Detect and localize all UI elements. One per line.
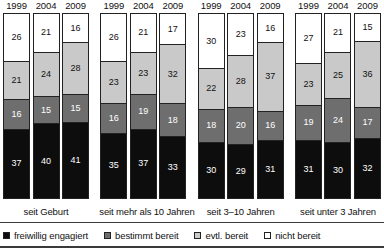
segment-evtl-bereit[interactable]: 37 — [258, 43, 283, 111]
segment-nicht-bereit[interactable]: 26 — [101, 14, 126, 62]
segment-value-label: 16 — [265, 121, 275, 130]
segment-value-label: 31 — [265, 165, 275, 174]
year-label: 1999 — [3, 0, 30, 13]
segment-value-label: 22 — [206, 84, 216, 93]
category-label-row: seit Geburtseit mehr als 10 Jahrenseit 3… — [0, 205, 384, 221]
stacked-bar[interactable]: 17321833 — [159, 13, 186, 199]
segment-bestimmt-bereit[interactable]: 19 — [296, 106, 321, 141]
segment-bestimmt-bereit[interactable]: 15 — [34, 97, 59, 125]
legend-item[interactable]: nicht bereit — [264, 230, 320, 241]
segment-bestimmt-bereit[interactable]: 17 — [355, 108, 380, 139]
segment-bestimmt-bereit[interactable]: 18 — [199, 110, 224, 143]
stacked-bar[interactable]: 21252430 — [324, 13, 351, 199]
segment-value-label: 19 — [303, 118, 313, 127]
segment-value-label: 30 — [206, 37, 216, 46]
segment-evtl-bereit[interactable]: 24 — [34, 53, 59, 97]
segment-value-label: 17 — [362, 118, 372, 127]
stacked-bar[interactable]: 26211637 — [3, 13, 30, 199]
bar-group: 199920042009262116372124154016281541 — [2, 0, 90, 210]
segment-nicht-bereit[interactable]: 26 — [4, 14, 29, 62]
legend-label: bestimmt bereit — [115, 230, 178, 241]
segment-value-label: 23 — [236, 30, 246, 39]
segment-nicht-bereit[interactable]: 21 — [34, 14, 59, 53]
segment-freiwillig-engagiert[interactable]: 32 — [355, 139, 380, 198]
segment-freiwillig-engagiert[interactable]: 29 — [228, 145, 253, 198]
year-header-row: 199920042009 — [2, 0, 90, 13]
segment-evtl-bereit[interactable]: 25 — [325, 53, 350, 99]
segment-evtl-bereit[interactable]: 23 — [131, 53, 156, 95]
legend-item[interactable]: freiwillig engagiert — [3, 230, 88, 241]
stacked-bar[interactable]: 21241540 — [33, 13, 60, 199]
segment-freiwillig-engagiert[interactable]: 31 — [296, 141, 321, 198]
segment-nicht-bereit[interactable]: 21 — [131, 14, 156, 53]
segment-nicht-bereit[interactable]: 15 — [355, 14, 380, 42]
segment-bestimmt-bereit[interactable]: 19 — [131, 95, 156, 130]
segment-freiwillig-engagiert[interactable]: 41 — [63, 123, 88, 198]
year-label: 2009 — [257, 0, 284, 13]
segment-value-label: 30 — [206, 166, 216, 175]
legend-item[interactable]: evtl. bereit — [194, 230, 248, 241]
segment-evtl-bereit[interactable]: 23 — [101, 62, 126, 104]
segment-freiwillig-engagiert[interactable]: 35 — [101, 134, 126, 198]
chart-legend: freiwillig engagiertbestimmt bereitevtl.… — [0, 227, 384, 243]
segment-value-label: 30 — [333, 166, 343, 175]
year-label: 2009 — [159, 0, 186, 13]
year-label: 1999 — [295, 0, 322, 13]
stacked-bar[interactable]: 26231635 — [100, 13, 127, 199]
segment-value-label: 16 — [265, 24, 275, 33]
segment-value-label: 28 — [236, 77, 246, 86]
segment-value-label: 26 — [11, 33, 21, 42]
segment-evtl-bereit[interactable]: 36 — [355, 42, 380, 108]
segment-evtl-bereit[interactable]: 21 — [4, 62, 29, 101]
bar-group: 199920042009272319312125243015361732 — [294, 0, 382, 210]
segment-nicht-bereit[interactable]: 16 — [63, 14, 88, 43]
segment-nicht-bereit[interactable]: 23 — [228, 14, 253, 56]
segment-bestimmt-bereit[interactable]: 16 — [258, 112, 283, 141]
segment-bestimmt-bereit[interactable]: 16 — [4, 100, 29, 129]
legend-item[interactable]: bestimmt bereit — [104, 230, 178, 241]
legend-label: freiwillig engagiert — [14, 230, 88, 241]
segment-bestimmt-bereit[interactable]: 20 — [228, 108, 253, 145]
segment-value-label: 33 — [168, 163, 178, 172]
segment-freiwillig-engagiert[interactable]: 30 — [325, 143, 350, 198]
segment-freiwillig-engagiert[interactable]: 40 — [34, 124, 59, 198]
segment-value-label: 18 — [168, 116, 178, 125]
segment-freiwillig-engagiert[interactable]: 37 — [131, 130, 156, 198]
segment-value-label: 15 — [362, 23, 372, 32]
segment-evtl-bereit[interactable]: 22 — [199, 69, 224, 109]
year-label: 2009 — [62, 0, 89, 13]
segment-evtl-bereit[interactable]: 23 — [296, 64, 321, 106]
segment-freiwillig-engagiert[interactable]: 30 — [199, 143, 224, 198]
segment-evtl-bereit[interactable]: 28 — [228, 56, 253, 108]
segment-nicht-bereit[interactable]: 17 — [160, 14, 185, 45]
segment-value-label: 20 — [236, 121, 246, 130]
segment-evtl-bereit[interactable]: 28 — [63, 43, 88, 95]
bar-group: 199920042009302218302328202916371631 — [197, 0, 285, 210]
stacked-bar[interactable]: 27231931 — [295, 13, 322, 199]
segment-freiwillig-engagiert[interactable]: 37 — [4, 130, 29, 198]
segment-value-label: 27 — [303, 34, 313, 43]
stacked-bar[interactable]: 16371631 — [257, 13, 284, 199]
segment-value-label: 21 — [41, 28, 51, 37]
segment-value-label: 16 — [109, 114, 119, 123]
segment-bestimmt-bereit[interactable]: 18 — [160, 104, 185, 137]
segment-nicht-bereit[interactable]: 27 — [296, 14, 321, 64]
segment-nicht-bereit[interactable]: 16 — [258, 14, 283, 43]
stacked-bar[interactable]: 30221830 — [198, 13, 225, 199]
segment-nicht-bereit[interactable]: 21 — [325, 14, 350, 53]
segment-bestimmt-bereit[interactable]: 16 — [101, 104, 126, 133]
segment-value-label: 28 — [70, 64, 80, 73]
segment-freiwillig-engagiert[interactable]: 31 — [258, 141, 283, 198]
stacked-bar[interactable]: 16281541 — [62, 13, 89, 199]
segment-bestimmt-bereit[interactable]: 24 — [325, 99, 350, 143]
stacked-bar[interactable]: 15361732 — [354, 13, 381, 199]
year-label: 2004 — [33, 0, 60, 13]
year-header-row: 199920042009 — [294, 0, 382, 13]
segment-freiwillig-engagiert[interactable]: 33 — [160, 137, 185, 198]
stacked-bar[interactable]: 23282029 — [227, 13, 254, 199]
segment-bestimmt-bereit[interactable]: 15 — [63, 95, 88, 123]
segment-evtl-bereit[interactable]: 32 — [160, 45, 185, 104]
segment-nicht-bereit[interactable]: 30 — [199, 14, 224, 69]
stacked-bar[interactable]: 21231937 — [130, 13, 157, 199]
segment-value-label: 26 — [109, 33, 119, 42]
